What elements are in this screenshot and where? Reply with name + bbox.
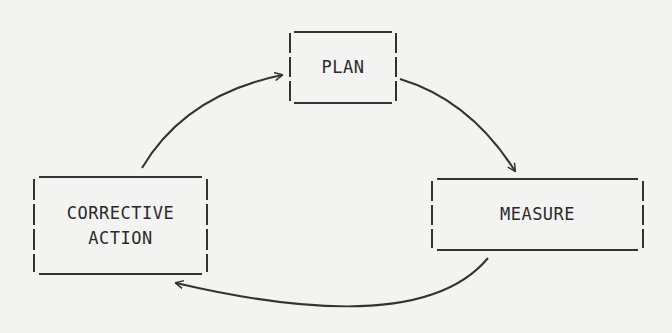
corrective-action-box-left-dash	[33, 254, 35, 272]
plan-box-left-dash	[289, 33, 291, 53]
corrective-action-box-bottom-border	[39, 273, 202, 275]
corrective-action-box-left-dash	[33, 179, 35, 200]
measure-box-top-border	[437, 178, 638, 180]
plan-box-left-dash	[289, 81, 291, 101]
corrective-action-label-line-1: CORRECTIVE	[33, 201, 208, 226]
arrow-measure-to-corrective	[176, 258, 488, 306]
corrective-action-box: CORRECTIVE ACTION	[33, 176, 208, 275]
plan-box-bottom-border	[294, 102, 392, 104]
arrow-corrective-to-plan	[142, 75, 282, 168]
measure-box-left-dash	[431, 229, 433, 248]
measure-label: MEASURE	[431, 202, 644, 227]
corrective-action-label-line-2: ACTION	[33, 226, 208, 251]
measure-box-left-dash	[431, 181, 433, 201]
measure-box-right-dash	[642, 181, 644, 201]
measure-box-bottom-border	[437, 249, 638, 251]
plan-box-right-dash	[395, 81, 397, 101]
measure-label-line: MEASURE	[431, 202, 644, 227]
control-cycle-diagram: PLAN CORRECTIVE ACTION MEASURE	[0, 0, 672, 333]
corrective-action-box-right-dash	[206, 179, 208, 200]
measure-box: MEASURE	[431, 178, 644, 251]
corrective-action-box-right-dash	[206, 254, 208, 272]
plan-box: PLAN	[289, 31, 397, 104]
plan-box-right-dash	[395, 33, 397, 53]
plan-box-top-border	[294, 31, 392, 33]
arrow-plan-to-measure	[400, 79, 515, 171]
measure-box-right-dash	[642, 229, 644, 248]
plan-label: PLAN	[289, 55, 397, 80]
corrective-action-label: CORRECTIVE ACTION	[33, 201, 208, 251]
plan-label-line: PLAN	[289, 55, 397, 80]
corrective-action-box-top-border	[39, 176, 202, 178]
